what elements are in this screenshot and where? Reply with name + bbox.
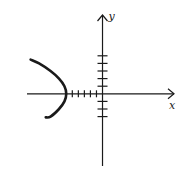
parabola-curve [31, 60, 67, 118]
axes: x y [27, 10, 176, 166]
x-axis-label: x [169, 99, 176, 112]
y-axis-label: y [108, 10, 116, 23]
curves [31, 60, 67, 118]
graph: x y [0, 0, 185, 169]
